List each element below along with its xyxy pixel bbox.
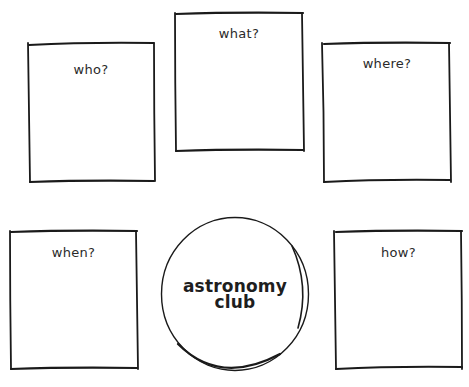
central-topic-line2: club bbox=[160, 294, 310, 310]
where-box[interactable]: where? bbox=[322, 42, 452, 183]
how-box[interactable]: how? bbox=[334, 230, 463, 370]
how-label: how? bbox=[334, 245, 463, 260]
central-topic-circle[interactable]: astronomy club bbox=[160, 216, 310, 372]
where-label: where? bbox=[322, 56, 452, 71]
who-label: who? bbox=[27, 62, 155, 77]
what-box[interactable]: what? bbox=[174, 12, 304, 152]
when-box[interactable]: when? bbox=[9, 230, 138, 370]
who-box[interactable]: who? bbox=[27, 42, 155, 183]
what-label: what? bbox=[174, 26, 304, 41]
when-label: when? bbox=[9, 245, 138, 260]
